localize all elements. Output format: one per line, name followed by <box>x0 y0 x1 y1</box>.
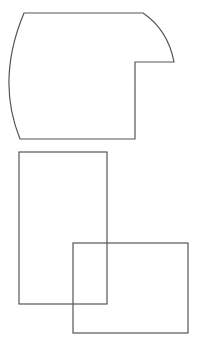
notched-rounded-shape <box>9 13 174 139</box>
tall-rectangle <box>19 152 107 304</box>
wide-rectangle <box>73 243 188 333</box>
diagram-svg <box>0 0 197 343</box>
diagram-canvas <box>0 0 197 343</box>
